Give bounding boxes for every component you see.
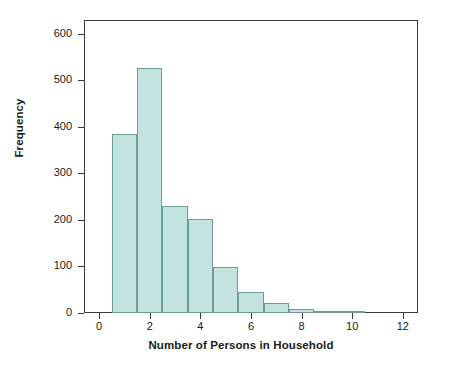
histogram-figure: Frequency 0100200300400500600 024681012 … <box>0 0 449 365</box>
y-axis-tick-label: 0 <box>32 306 72 318</box>
x-axis-tick-label: 8 <box>287 320 317 332</box>
y-axis-tick-label: 200 <box>32 213 72 225</box>
y-axis-tick <box>78 220 84 221</box>
y-axis-tick-label: 400 <box>32 120 72 132</box>
histogram-bar <box>112 134 137 313</box>
y-axis-tick-label: 500 <box>32 73 72 85</box>
x-axis-tick-label: 4 <box>185 320 215 332</box>
y-axis-title: Frequency <box>13 73 25 183</box>
y-axis-tick <box>78 80 84 81</box>
x-axis-title: Number of Persons in Household <box>60 339 422 351</box>
y-axis-tick-label: 300 <box>32 166 72 178</box>
y-axis-tick <box>78 34 84 35</box>
y-axis-tick <box>78 313 84 314</box>
histogram-bar <box>137 68 162 313</box>
x-axis-tick-label: 10 <box>337 320 367 332</box>
x-axis-tick-label: 6 <box>236 320 266 332</box>
x-axis-tick <box>302 313 303 319</box>
x-axis-tick-label: 2 <box>135 320 165 332</box>
histogram-bar <box>213 267 238 314</box>
y-axis-tick <box>78 127 84 128</box>
x-axis-tick <box>403 313 404 319</box>
bar-series <box>84 20 418 313</box>
y-axis-tick-label: 100 <box>32 259 72 271</box>
y-axis-tick <box>78 266 84 267</box>
x-axis-tick-label: 0 <box>84 320 114 332</box>
histogram-bar <box>264 303 289 313</box>
x-axis-tick <box>352 313 353 319</box>
x-axis-tick <box>200 313 201 319</box>
y-axis-tick <box>78 173 84 174</box>
histogram-bar <box>188 219 213 313</box>
x-axis-tick <box>251 313 252 319</box>
y-axis-tick-label: 600 <box>32 27 72 39</box>
histogram-bar <box>162 206 187 313</box>
x-axis-tick-label: 12 <box>388 320 418 332</box>
histogram-bar <box>238 292 263 313</box>
histogram-bar <box>314 311 339 313</box>
x-axis-tick <box>99 313 100 319</box>
x-axis-tick <box>150 313 151 319</box>
